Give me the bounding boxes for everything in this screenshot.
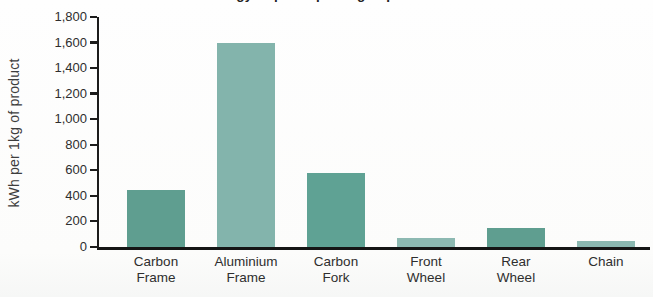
x-tick-label-chain: Chain <box>561 254 651 270</box>
y-tick-label: 200 <box>27 213 87 229</box>
y-tick-label: 1,600 <box>27 35 87 51</box>
y-axis-title: kWh per 1kg of product <box>5 33 23 233</box>
y-tick <box>90 246 97 248</box>
y-tick <box>90 169 97 171</box>
bar-aluminium-frame <box>217 43 275 247</box>
x-tick-label-front-wheel: Front Wheel <box>381 254 471 286</box>
bar-chart: Energy required per 1kg of product manuf… <box>0 0 653 297</box>
y-tick-label: 1,200 <box>27 86 87 102</box>
bar-chain <box>577 241 635 247</box>
bar-carbon-frame <box>127 190 185 248</box>
bar-front-wheel <box>397 238 455 247</box>
y-tick <box>90 16 97 18</box>
y-tick <box>90 220 97 222</box>
plot-area: 02004006008001,0001,2001,4001,6001,800Ca… <box>97 17 650 250</box>
bar-rear-wheel <box>487 228 545 247</box>
y-tick <box>90 92 97 94</box>
y-tick <box>90 67 97 69</box>
y-tick <box>90 195 97 197</box>
y-tick-label: 600 <box>27 162 87 178</box>
chart-title-clipped: Energy required per 1kg of product manuf… <box>95 0 648 4</box>
y-tick-label: 0 <box>27 239 87 255</box>
x-tick-label-aluminium-frame: Aluminium Frame <box>201 254 291 286</box>
y-tick-label: 1,400 <box>27 60 87 76</box>
y-tick <box>90 144 97 146</box>
y-tick <box>90 118 97 120</box>
y-tick-label: 1,800 <box>27 9 87 25</box>
chart-title-text: Energy required per 1kg of product manuf… <box>95 0 648 2</box>
y-tick-label: 800 <box>27 137 87 153</box>
y-tick <box>90 41 97 43</box>
y-tick-label: 400 <box>27 188 87 204</box>
x-tick-label-rear-wheel: Rear Wheel <box>471 254 561 286</box>
x-tick-label-carbon-frame: Carbon Frame <box>111 254 201 286</box>
y-tick-label: 1,000 <box>27 111 87 127</box>
x-tick-label-carbon-fork: Carbon Fork <box>291 254 381 286</box>
bar-carbon-fork <box>307 173 365 247</box>
